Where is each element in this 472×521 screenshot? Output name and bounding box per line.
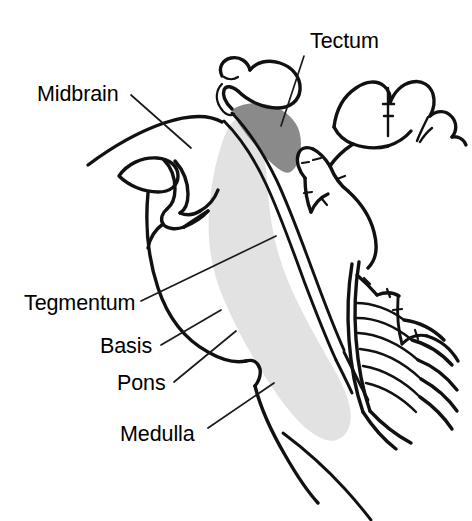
cerebellum-upper-region bbox=[297, 82, 466, 212]
leader-line-midbrain bbox=[131, 95, 191, 148]
brainstem-figure: Tectum Midbrain Tegmentum Basis Pons Med… bbox=[0, 0, 472, 521]
cerebellum-lower-region bbox=[348, 262, 458, 449]
label-tegmentum: Tegmentum bbox=[24, 291, 135, 315]
tentorium-line bbox=[348, 191, 376, 268]
leader-line-medulla bbox=[208, 383, 274, 428]
label-tectum: Tectum bbox=[310, 29, 379, 53]
label-midbrain: Midbrain bbox=[37, 82, 119, 106]
optic-chiasm-region bbox=[119, 158, 218, 248]
anatomy-illustration: Tectum Midbrain Tegmentum Basis Pons Med… bbox=[0, 0, 472, 521]
label-medulla: Medulla bbox=[120, 422, 195, 446]
label-basis: Basis bbox=[100, 334, 152, 358]
leader-line-pons bbox=[174, 331, 236, 382]
label-pons: Pons bbox=[117, 371, 166, 395]
